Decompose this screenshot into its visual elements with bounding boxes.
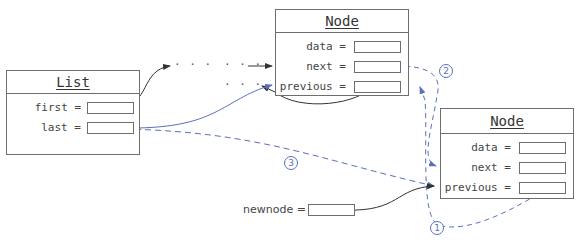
step-marker-2: 2: [439, 64, 453, 78]
list-field-last-slot: [87, 122, 134, 134]
step-marker-1: 1: [430, 221, 444, 235]
node-new-data-label: data =: [471, 141, 511, 154]
list-field-last-label: last =: [41, 121, 81, 134]
list-title: List: [7, 71, 139, 94]
node-new-previous-label: previous =: [445, 181, 511, 194]
node-top-data-slot: [354, 41, 401, 53]
ellipsis-right: · · ·: [224, 58, 262, 71]
node-top-next-label: next =: [306, 60, 346, 73]
node-top-next-slot: [354, 61, 401, 73]
node-new-previous-slot: [519, 182, 566, 194]
node-top-box: Node data = next = previous =: [275, 9, 409, 96]
node-new-data-slot: [519, 142, 566, 154]
arrow-step-3: [125, 129, 434, 186]
newnode-label: newnode =: [243, 203, 306, 216]
list-field-first-slot: [87, 102, 134, 114]
node-new-next-label: next =: [471, 161, 511, 174]
node-new-title: Node: [441, 109, 573, 134]
node-top-title: Node: [276, 10, 408, 33]
step-marker-3: 3: [284, 156, 298, 170]
list-box: List first = last =: [6, 70, 140, 155]
node-top-previous-label: previous =: [280, 80, 346, 93]
ellipsis-left: · · ·: [174, 58, 212, 71]
node-new-next-slot: [519, 162, 566, 174]
node-new-box: Node data = next = previous =: [440, 108, 574, 199]
list-field-first-label: first =: [35, 101, 81, 114]
ellipsis-lower: · · ·: [224, 78, 262, 91]
node-top-data-label: data =: [306, 40, 346, 53]
node-top-previous-slot: [354, 81, 401, 93]
newnode-slot: [308, 204, 355, 216]
arrow-newnode: [345, 186, 434, 210]
